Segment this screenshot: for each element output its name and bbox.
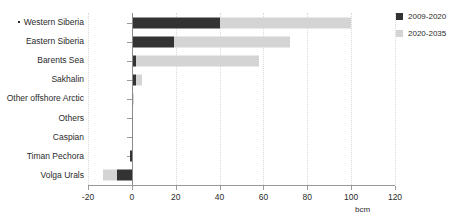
bar-segment [220, 17, 352, 28]
x-axis-tick [132, 186, 133, 190]
x-axis-tick [176, 186, 177, 190]
bar-row [88, 51, 395, 70]
x-axis-tick-label: 100 [344, 192, 358, 202]
y-axis-label-text: Others [58, 113, 84, 123]
y-axis-category-labels: Western SiberiaEastern SiberiaBarents Se… [0, 13, 84, 185]
bar-segment [174, 36, 290, 47]
bar-row [88, 166, 395, 185]
y-axis-label: Volga Urals [41, 166, 84, 185]
y-axis-label-text: Western Siberia [24, 17, 84, 27]
y-axis-label: Barents Sea [37, 51, 84, 70]
x-axis-tick-label: 0 [129, 192, 134, 202]
bar-row [88, 13, 395, 32]
legend-label: 2020-2035 [408, 29, 446, 38]
y-axis-label-text: Timan Pechora [27, 151, 84, 161]
legend-item[interactable]: 2009-2020 [396, 12, 462, 21]
x-axis: -20020406080100120 [88, 185, 395, 186]
bar-row [88, 89, 395, 108]
y-axis-label-text: Sakhalin [51, 74, 84, 84]
x-axis-tick [307, 186, 308, 190]
plot-area [88, 13, 395, 185]
legend-swatch-icon [396, 13, 403, 20]
x-axis-tick-label: 120 [388, 192, 402, 202]
x-axis-tick [220, 186, 221, 190]
bar-row [88, 109, 395, 128]
x-axis-unit-label: bcm [355, 205, 370, 214]
bar-segment [132, 36, 174, 47]
x-axis-tick-label: 40 [215, 192, 224, 202]
y-axis-label: Timan Pechora [27, 147, 84, 166]
x-axis-tick-label: 20 [171, 192, 180, 202]
y-axis-label-text: Barents Sea [37, 55, 84, 65]
bar-segment [132, 17, 220, 28]
bar-row [88, 32, 395, 51]
y-axis-label-text: Other offshore Arctic [7, 93, 84, 103]
x-axis-tick-label: 80 [303, 192, 312, 202]
bar-segment [136, 55, 259, 66]
y-axis-label: Western Siberia [18, 13, 84, 32]
zero-axis-line [132, 13, 133, 185]
y-axis-label: Other offshore Arctic [7, 89, 84, 108]
y-axis-label: Eastern Siberia [26, 32, 84, 51]
bar-segment [103, 170, 116, 181]
bar-segment [117, 170, 132, 181]
y-axis-label: Caspian [53, 128, 84, 147]
bar-row [88, 128, 395, 147]
x-axis-tick-label: -20 [82, 192, 94, 202]
legend-label: 2009-2020 [408, 12, 446, 21]
x-axis-tick [263, 186, 264, 190]
legend-item[interactable]: 2020-2035 [396, 29, 462, 38]
bar-segment [136, 74, 141, 85]
chart-title [0, 0, 465, 3]
bar-chart: Western SiberiaEastern SiberiaBarents Se… [0, 0, 465, 224]
bullet-marker-icon [18, 21, 20, 23]
y-axis-label-text: Volga Urals [41, 170, 84, 180]
x-axis-tick [88, 186, 89, 190]
y-axis-label-text: Eastern Siberia [26, 36, 84, 46]
y-axis-label: Others [58, 109, 84, 128]
x-axis-tick [351, 186, 352, 190]
bar-row [88, 70, 395, 89]
x-axis-tick-label: 60 [259, 192, 268, 202]
y-axis-label: Sakhalin [51, 70, 84, 89]
bar-row [88, 147, 395, 166]
chart-legend: 2009-20202020-2035 [396, 12, 462, 46]
y-axis-label-text: Caspian [53, 132, 84, 142]
legend-swatch-icon [396, 30, 403, 37]
x-axis-tick [395, 186, 396, 190]
